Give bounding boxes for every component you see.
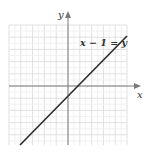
y-axis-label: y xyxy=(57,9,64,20)
equation-label: x − 1 = y xyxy=(79,37,128,48)
graph: y x x − 1 = y xyxy=(0,0,150,159)
y-axis-arrow-icon xyxy=(65,11,71,18)
x-axis-label: x xyxy=(137,89,143,100)
